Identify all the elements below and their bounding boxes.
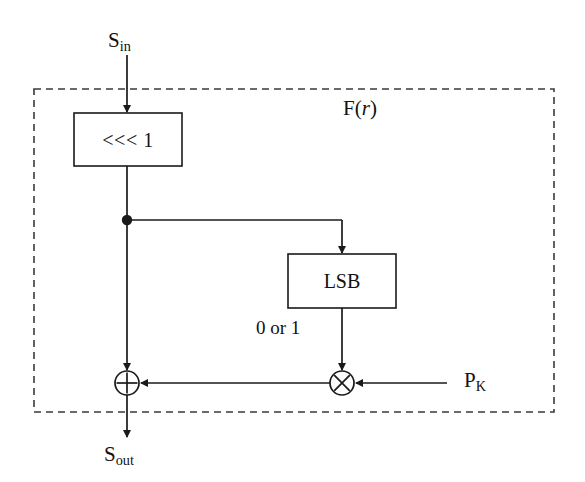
xor-operator-icon <box>115 371 139 395</box>
wire-label-zero-or-one: 0 or 1 <box>256 318 300 337</box>
lsb-block-label: LSB <box>288 254 396 308</box>
function-label-fr: F(r) <box>343 98 377 119</box>
round-function-diagram: Sin F(r) <<< 1 LSB 0 or 1 PK Sout <box>0 0 585 482</box>
diagram-canvas <box>0 0 585 482</box>
junction-dot <box>122 215 132 225</box>
multiply-operator-icon <box>330 371 354 395</box>
rotate-block-label: <<< 1 <box>74 113 182 166</box>
signal-label-pk: PK <box>464 370 486 391</box>
signal-label-sout: Sout <box>104 444 134 465</box>
signal-label-sin: Sin <box>108 30 131 51</box>
